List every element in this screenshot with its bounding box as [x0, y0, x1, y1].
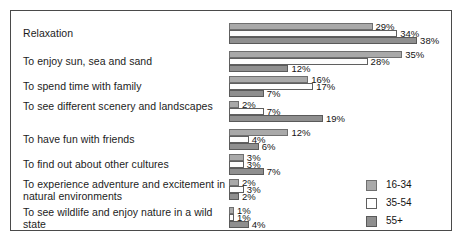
bar-55plus — [229, 168, 264, 175]
chart-legend: 16-3435-5455+ — [366, 178, 446, 232]
bar-16-34 — [229, 207, 234, 214]
bar-value-label: 6% — [262, 141, 276, 152]
bar-value-label: 19% — [326, 113, 345, 124]
bar-value-label: 2% — [242, 191, 256, 202]
bar-value-label: 35% — [405, 49, 424, 60]
legend-item: 35-54 — [366, 196, 446, 214]
category-label: To see different scenery and landscapes — [23, 101, 231, 113]
legend-swatch — [366, 198, 377, 209]
bar-16-34 — [229, 154, 244, 161]
bar-35-54 — [229, 214, 234, 221]
legend-item: 16-34 — [366, 178, 446, 196]
bar-value-label: 38% — [420, 35, 439, 46]
category-label: To experience adventure and excitement i… — [23, 179, 231, 202]
bar-value-label: 12% — [291, 63, 310, 74]
category-label: To see wildlife and enjoy nature in a wi… — [23, 207, 231, 230]
bar-16-34 — [229, 179, 239, 186]
legend-item: 55+ — [366, 214, 446, 232]
category-label: To have fun with friends — [23, 134, 231, 146]
bar-value-label: 7% — [267, 166, 281, 177]
legend-swatch — [366, 216, 377, 227]
chart-frame: Relaxation29%34%38%To enjoy sun, sea and… — [10, 10, 452, 231]
bar-16-34 — [229, 101, 239, 108]
category-label: To enjoy sun, sea and sand — [23, 56, 231, 68]
category-label: Relaxation — [23, 28, 231, 40]
bar-value-label: 17% — [316, 81, 335, 92]
category-label: To find out about other cultures — [23, 159, 231, 171]
bar-16-34 — [229, 76, 308, 83]
bar-35-54 — [229, 108, 264, 115]
bar-55plus — [229, 37, 417, 44]
bar-55plus — [229, 193, 239, 200]
bar-55plus — [229, 115, 323, 122]
bar-55plus — [229, 90, 264, 97]
bar-35-54 — [229, 30, 397, 37]
bar-55plus — [229, 65, 288, 72]
legend-label: 35-54 — [386, 197, 412, 208]
category-label: To spend time with family — [23, 81, 231, 93]
bar-value-label: 4% — [252, 219, 266, 230]
bar-value-label: 12% — [291, 127, 310, 138]
legend-label: 55+ — [386, 215, 403, 226]
legend-label: 16-34 — [386, 179, 412, 190]
bar-35-54 — [229, 161, 244, 168]
bar-16-34 — [229, 23, 373, 30]
legend-swatch — [366, 180, 377, 191]
bar-value-label: 7% — [267, 88, 281, 99]
bar-35-54 — [229, 136, 249, 143]
bar-55plus — [229, 221, 249, 228]
bar-value-label: 28% — [371, 56, 390, 67]
bar-55plus — [229, 143, 259, 150]
